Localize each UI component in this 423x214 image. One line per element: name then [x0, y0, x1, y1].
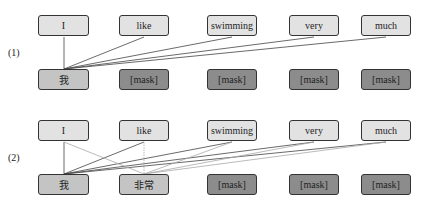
target-token-mask: [mask]	[207, 69, 257, 90]
target-token-mask: [mask]	[361, 174, 411, 195]
panel-label-2: (2)	[8, 152, 20, 163]
target-token-mask: [mask]	[289, 69, 339, 90]
source-token-swimming: swimming	[207, 120, 257, 141]
source-token-i: I	[38, 15, 89, 36]
target-token-mask: [mask]	[361, 69, 411, 90]
source-token-like: like	[119, 15, 169, 36]
target-token-mask: [mask]	[119, 69, 169, 90]
target-token-mask: [mask]	[207, 174, 257, 195]
source-token-much: much	[361, 15, 411, 36]
source-token-very: very	[289, 120, 339, 141]
source-token-much: much	[361, 120, 411, 141]
source-token-swimming: swimming	[207, 15, 257, 36]
target-token-feichang: 非常	[119, 174, 169, 195]
target-token-wo: 我	[38, 69, 89, 90]
source-token-i: I	[38, 120, 89, 141]
target-token-mask: [mask]	[289, 174, 339, 195]
source-token-like: like	[119, 120, 169, 141]
source-token-very: very	[289, 15, 339, 36]
target-token-wo: 我	[38, 174, 89, 195]
panel-label-1: (1)	[8, 47, 20, 58]
